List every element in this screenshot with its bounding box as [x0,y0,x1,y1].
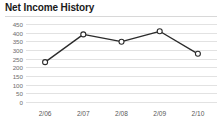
line-chart-svg: 050100150200250300350400450 2/062/072/08… [0,18,221,125]
y-axis-tick-label: 150 [13,73,24,80]
y-axis-tick-label: 100 [13,82,24,89]
title-bar: Net Income History [0,0,221,18]
x-axis-tick-label: 2/06 [39,110,52,117]
y-axis-tick-label: 350 [13,38,24,45]
y-axis-tick-label: 200 [13,64,24,71]
y-axis-tick-label: 50 [16,90,23,97]
x-axis-tick-label: 2/07 [77,110,90,117]
data-point-marker[interactable] [119,39,124,44]
y-axis-tick-labels: 050100150200250300350400450 [13,21,24,106]
data-point-marker[interactable] [157,29,162,34]
data-point-marker[interactable] [43,60,48,65]
x-axis-tick-labels: 2/062/072/082/092/10 [39,110,205,117]
page-title: Net Income History [5,2,94,13]
gridlines-group [26,25,217,103]
data-point-marker[interactable] [81,32,86,37]
y-axis-tick-label: 250 [13,56,24,63]
net-income-history-widget: Net Income History 050100150200250300350… [0,0,221,125]
y-axis-tick-label: 450 [13,21,24,28]
chart-plot-area: 050100150200250300350400450 2/062/072/08… [0,18,221,125]
x-axis-tick-label: 2/10 [191,110,204,117]
y-axis-tick-label: 300 [13,47,24,54]
data-point-marker[interactable] [195,51,200,56]
x-axis-tick-label: 2/09 [153,110,166,117]
y-axis-tick-label: 0 [20,99,24,106]
net-income-line [45,31,198,62]
y-axis-tick-label: 400 [13,30,24,37]
title-divider [5,16,217,17]
x-axis-tick-label: 2/08 [115,110,128,117]
